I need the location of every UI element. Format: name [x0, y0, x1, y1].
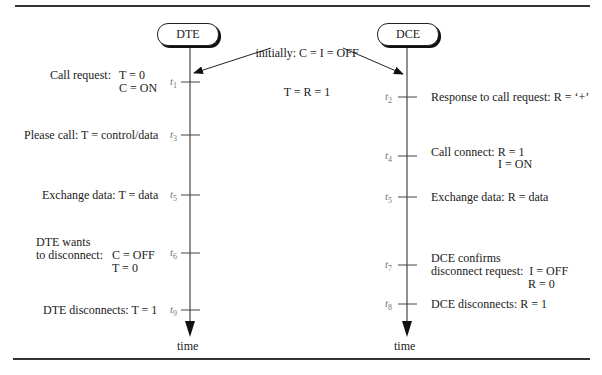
time-mark-t5-dte: t5: [170, 188, 177, 203]
dce-time-arrowhead: [402, 321, 412, 337]
dte-event-call-request-label: Call request:: [50, 69, 111, 82]
dte-event-exchange-data: Exchange data: T = data: [42, 189, 158, 202]
initial-state-line1: initially: C = I = OFF: [247, 47, 367, 60]
dce-node: DCE: [377, 23, 439, 46]
initial-state-line2: T = R = 1: [247, 86, 367, 99]
time-mark-t4: t4: [385, 149, 392, 164]
time-mark-t2: t2: [385, 90, 392, 105]
dce-event-response: Response to call request: R = ‘+’: [431, 91, 589, 104]
dte-time-axis-label: time: [177, 340, 198, 353]
dce-event-call-connect-values: I = ON: [498, 158, 532, 171]
time-mark-t1: t1: [170, 75, 177, 90]
time-mark-t7: t7: [385, 258, 392, 273]
initial-state: initially: C = I = OFF T = R = 1: [247, 21, 367, 112]
dte-event-wants-disconnect-values: C = OFF T = 0: [112, 249, 155, 275]
dte-node-label: DTE: [176, 27, 199, 42]
time-mark-t6: t6: [170, 246, 177, 261]
dte-event-call-request-values: T = 0 C = ON: [119, 69, 157, 95]
time-mark-t8: t8: [385, 297, 392, 312]
time-mark-t3: t3: [170, 128, 177, 143]
time-mark-t9: t9: [170, 303, 177, 318]
dte-event-wants-disconnect-label: DTE wants to disconnect:: [36, 236, 103, 262]
dce-event-confirms-disconnect-values: R = 0: [528, 278, 555, 291]
dce-event-confirms-disconnect-label: DCE confirms disconnect request: I = OFF: [431, 252, 568, 278]
time-mark-t5-dce: t5: [385, 190, 392, 205]
dce-node-label: DCE: [396, 27, 420, 42]
dce-time-axis-label: time: [394, 340, 415, 353]
dte-event-please-call: Please call: T = control/data: [24, 129, 158, 142]
dte-event-disconnects: DTE disconnects: T = 1: [43, 304, 157, 317]
dce-event-disconnects: DCE disconnects: R = 1: [431, 298, 547, 311]
dte-node: DTE: [157, 23, 219, 46]
dce-event-exchange-data: Exchange data: R = data: [431, 191, 548, 204]
dte-time-arrowhead: [185, 321, 195, 337]
